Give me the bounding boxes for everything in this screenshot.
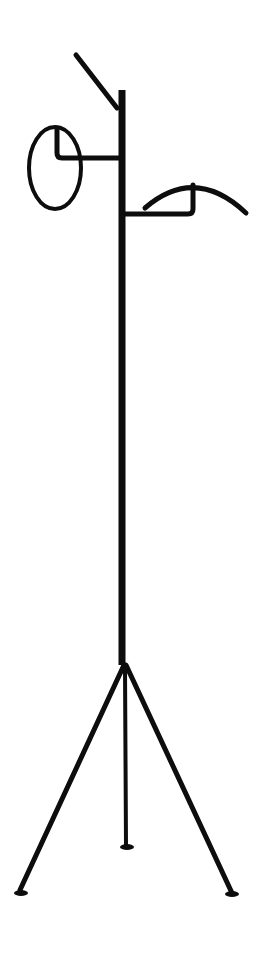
center-foot: [120, 844, 134, 850]
left-leg: [20, 662, 124, 890]
left-foot: [14, 890, 28, 896]
top-hook: [76, 55, 117, 108]
coat-stand-illustration: [0, 0, 267, 961]
product-photo: [0, 0, 267, 961]
right-foot: [225, 891, 239, 897]
right-leg: [126, 665, 232, 893]
center-leg: [125, 668, 126, 846]
